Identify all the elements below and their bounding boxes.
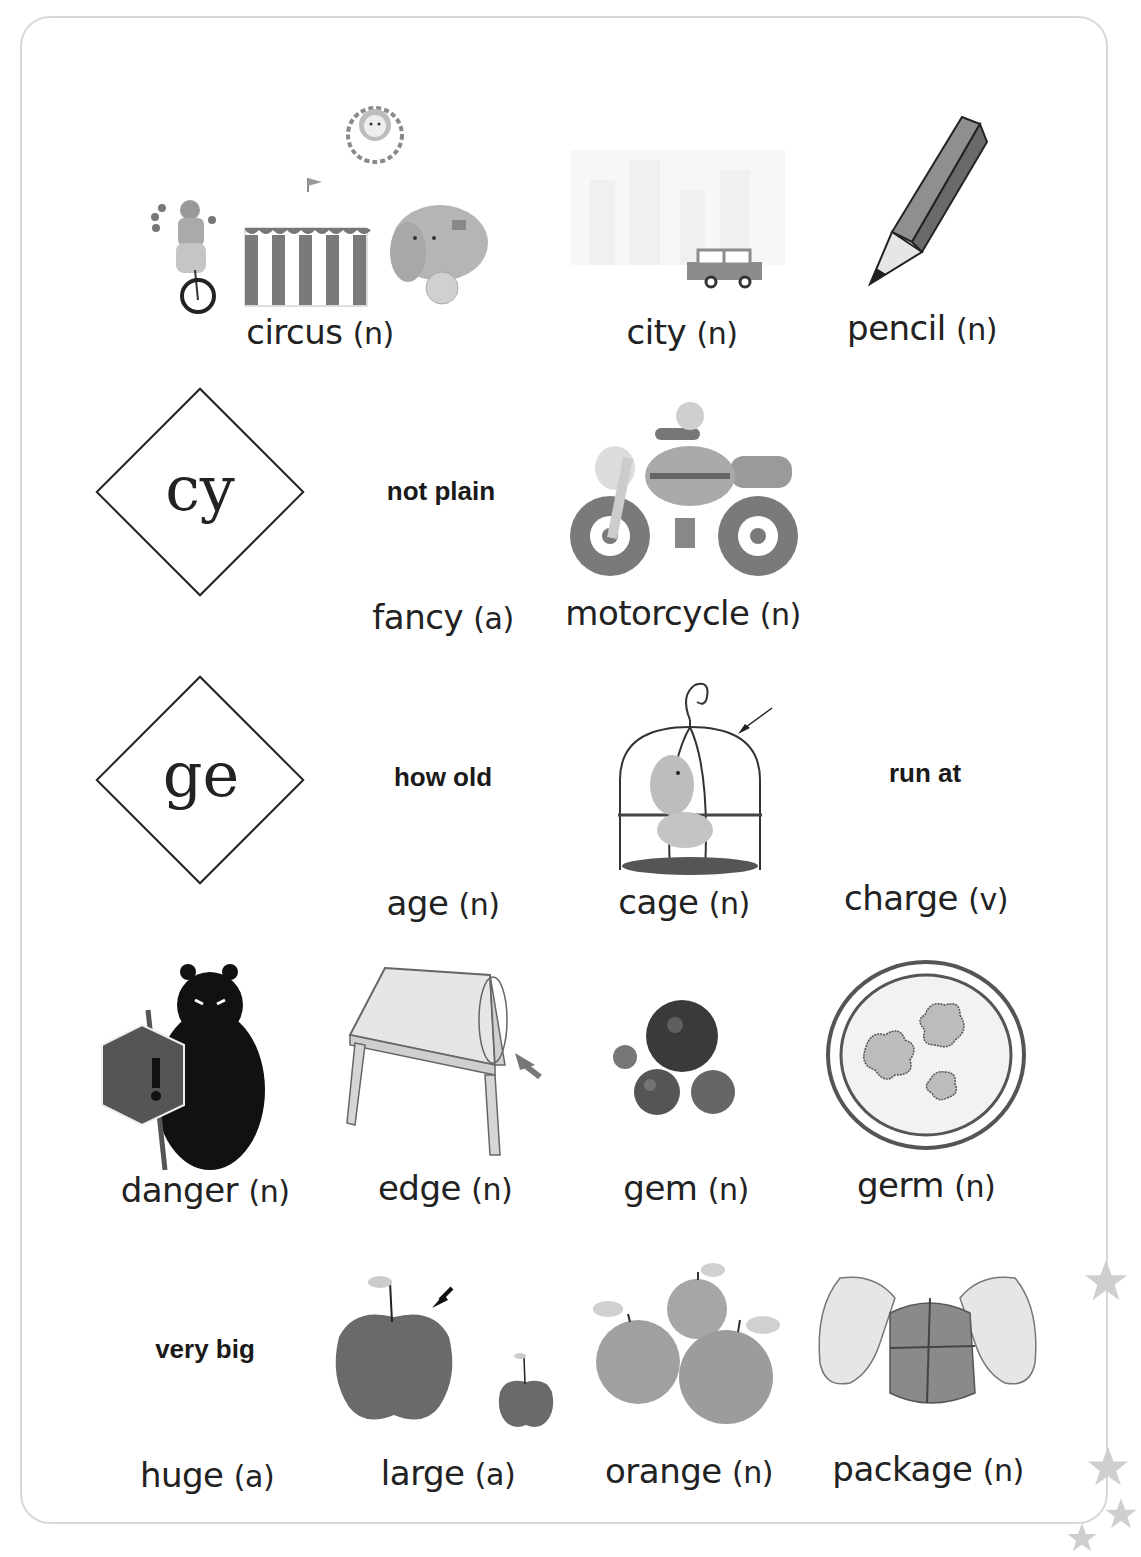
oranges-illustration-icon	[588, 1262, 788, 1437]
vocab-word-gem: gem (n)	[623, 1168, 748, 1208]
vocab-word-edge: edge (n)	[378, 1168, 512, 1208]
table-edge-illustration-icon	[345, 965, 550, 1165]
star-icon	[1104, 1497, 1138, 1531]
part-of-speech: (n)	[696, 316, 737, 351]
petri-dish-germs-illustration-icon	[825, 960, 1027, 1150]
word-text: city	[627, 312, 687, 352]
star-icon	[1066, 1522, 1098, 1554]
part-of-speech: (n)	[708, 1172, 749, 1207]
vocab-word-huge: huge (a)	[140, 1455, 274, 1495]
word-text: huge	[140, 1455, 224, 1495]
pencil-illustration-icon	[862, 112, 987, 292]
vocab-word-germ: germ (n)	[857, 1165, 995, 1205]
birdcage-illustration-icon	[610, 670, 785, 880]
part-of-speech: (n)	[983, 1453, 1024, 1488]
vocab-word-motorcycle: motorcycle (n)	[565, 593, 800, 633]
hint-not-plain: not plain	[387, 476, 495, 507]
part-of-speech: (n)	[353, 316, 394, 351]
word-text: cage	[618, 882, 698, 922]
part-of-speech: (n)	[459, 887, 500, 922]
apples-illustration-icon	[332, 1272, 562, 1427]
vocab-word-age: age (n)	[386, 883, 499, 923]
word-text: danger	[121, 1170, 238, 1210]
word-text: pencil	[847, 308, 946, 348]
vocab-word-fancy: fancy (a)	[372, 597, 513, 637]
word-text: orange	[605, 1451, 722, 1491]
word-text: package	[832, 1449, 972, 1489]
motorcycle-illustration-icon	[570, 398, 800, 588]
word-text: gem	[623, 1168, 697, 1208]
gems-illustration-icon	[610, 1000, 745, 1120]
phonics-pattern-ge: ge	[163, 738, 239, 811]
vocab-word-package: package (n)	[832, 1449, 1023, 1489]
city-car-illustration-icon	[570, 140, 790, 290]
part-of-speech: (n)	[732, 1455, 773, 1490]
vocab-word-large: large (a)	[381, 1453, 515, 1493]
bear-warning-sign-illustration-icon	[100, 960, 290, 1175]
word-text: motorcycle	[565, 593, 749, 633]
star-icon	[1083, 1258, 1129, 1304]
part-of-speech: (n)	[248, 1174, 289, 1209]
part-of-speech: (v)	[968, 882, 1008, 917]
part-of-speech: (n)	[760, 597, 801, 632]
word-text: edge	[378, 1168, 461, 1208]
word-text: charge	[844, 878, 958, 918]
part-of-speech: (n)	[956, 312, 997, 347]
hint-how-old: how old	[394, 762, 492, 793]
phonics-pattern-cy: cy	[165, 452, 235, 525]
word-text: large	[381, 1453, 465, 1493]
vocab-word-orange: orange (n)	[605, 1451, 773, 1491]
part-of-speech: (n)	[471, 1172, 512, 1207]
part-of-speech: (a)	[473, 601, 513, 636]
vocab-word-circus: circus (n)	[246, 312, 394, 352]
word-text: fancy	[372, 597, 463, 637]
word-text: age	[386, 883, 448, 923]
hint-very-big: very big	[155, 1334, 255, 1365]
star-icon	[1086, 1445, 1130, 1489]
vocab-word-cage: cage (n)	[618, 882, 749, 922]
vocab-word-city: city (n)	[627, 312, 738, 352]
hands-wrapping-package-illustration-icon	[815, 1268, 1040, 1418]
part-of-speech: (a)	[475, 1457, 515, 1492]
part-of-speech: (n)	[954, 1169, 995, 1204]
vocab-word-charge: charge (v)	[844, 878, 1008, 918]
hint-run-at: run at	[889, 758, 961, 789]
circus-illustration-icon	[150, 100, 490, 315]
word-text: circus	[246, 312, 342, 352]
vocab-word-pencil: pencil (n)	[847, 308, 997, 348]
word-text: germ	[857, 1165, 944, 1205]
part-of-speech: (n)	[709, 886, 750, 921]
vocab-word-danger: danger (n)	[121, 1170, 290, 1210]
part-of-speech: (a)	[234, 1459, 274, 1494]
